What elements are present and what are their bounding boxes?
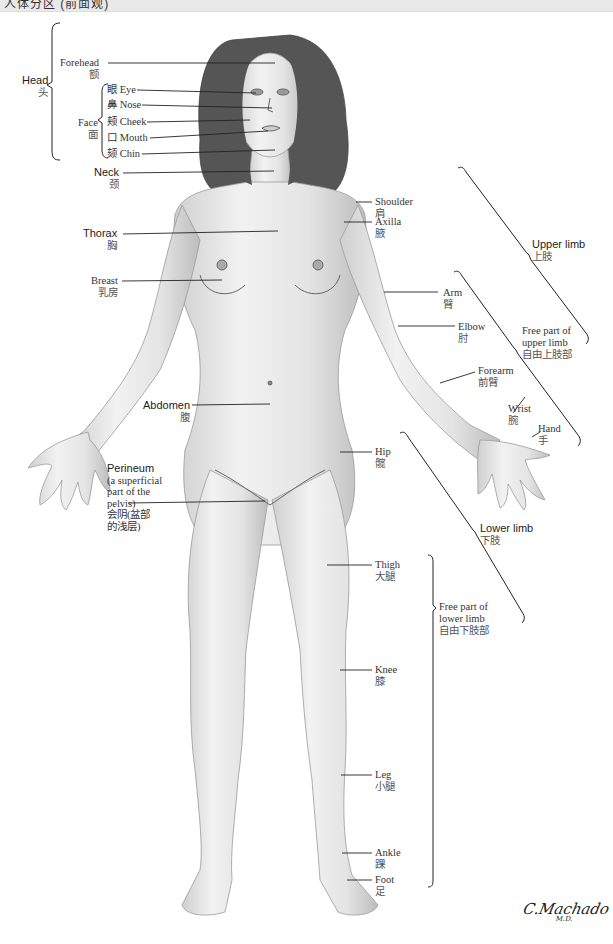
artist-signature: C.MachadoM.D.: [521, 900, 612, 923]
label-arm: Arm臂: [443, 287, 462, 311]
label-thorax: Thorax胸: [83, 227, 117, 251]
label-elbow: Elbow肘: [458, 321, 485, 345]
label-perineum: Perineum (a superficial part of the pelv…: [107, 463, 162, 532]
label-forearm: Forearm前臂: [478, 365, 514, 389]
label-upper-limb: Upper limb上肢: [532, 238, 585, 262]
label-cheek: 颊 Cheek: [107, 116, 146, 128]
label-leg: Leg小腿: [375, 769, 395, 793]
label-wrist: Wrist腕: [508, 403, 531, 427]
label-free-lower-limb: Free part oflower limb自由下肢部: [439, 601, 489, 637]
anatomy-figure: [0, 0, 613, 944]
free-lower-limb-brace: [428, 555, 436, 887]
label-forehead: Forehead额: [60, 57, 99, 81]
label-free-upper-limb: Free part ofupper limb自由上肢部: [522, 325, 572, 361]
head-brace: [47, 23, 60, 160]
label-eye: 眼 Eye: [107, 84, 136, 96]
label-mouth: 口 Mouth: [107, 132, 148, 144]
label-abdomen: Abdomen腹: [143, 399, 190, 423]
label-neck: Neck颈: [94, 166, 119, 190]
label-axilla: Axilla腋: [375, 216, 401, 240]
label-face: Face面: [78, 117, 98, 141]
label-breast: Breast乳房: [91, 275, 118, 299]
label-chin: 颏 Chin: [107, 148, 140, 160]
label-hand: Hand手: [538, 423, 561, 447]
label-head: Head头: [22, 74, 48, 98]
label-nose: 鼻 Nose: [107, 99, 141, 111]
label-hip: Hip髋: [375, 446, 391, 470]
label-lower-limb: Lower limb下肢: [480, 522, 533, 546]
label-thigh: Thigh大腿: [375, 559, 400, 583]
label-ankle: Ankle踝: [375, 847, 401, 871]
label-foot: Foot足: [375, 874, 394, 898]
label-knee: Knee膝: [375, 664, 397, 688]
